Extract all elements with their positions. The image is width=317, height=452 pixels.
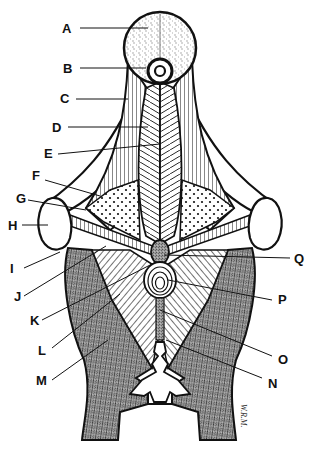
label-n: N bbox=[268, 376, 277, 391]
shoulder-h-left bbox=[38, 198, 71, 250]
label-l: L bbox=[38, 343, 46, 358]
label-c: C bbox=[60, 91, 70, 106]
label-b: B bbox=[63, 61, 72, 76]
artist-signature: W.R.M. bbox=[239, 404, 248, 427]
label-i: I bbox=[10, 261, 14, 276]
label-f: F bbox=[32, 168, 40, 183]
label-o: O bbox=[278, 352, 288, 367]
shoulder-h-right bbox=[249, 198, 282, 250]
node-q bbox=[151, 240, 169, 264]
label-e: E bbox=[44, 146, 53, 161]
stalk-o bbox=[156, 298, 164, 340]
label-d: D bbox=[52, 120, 61, 135]
label-h: H bbox=[8, 218, 17, 233]
label-k: K bbox=[30, 313, 40, 328]
concentric-rings-p bbox=[144, 262, 176, 298]
label-a: A bbox=[62, 21, 72, 36]
label-g: G bbox=[16, 191, 26, 206]
label-j: J bbox=[14, 289, 21, 304]
anatomical-diagram: A B C D E F G H I J K L M N O P Q W.R.M. bbox=[0, 0, 317, 452]
label-q: Q bbox=[294, 251, 304, 266]
label-m: M bbox=[36, 373, 47, 388]
label-p: P bbox=[278, 292, 287, 307]
